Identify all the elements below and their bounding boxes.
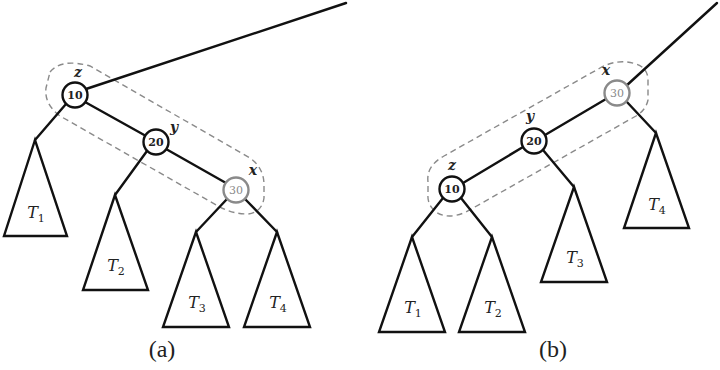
svg-text:10: 10 [67, 89, 83, 102]
panel-a-subtree-t4 [244, 232, 310, 327]
panel-b: T1 T2 T3 T4 10 z 20 y 30 x (b) [379, 3, 717, 362]
panel-b-edge-y-z [463, 147, 523, 183]
svg-text:30: 30 [610, 87, 624, 100]
panel-a-node-x: 30 x [224, 162, 258, 203]
panel-a-edge-x-t3 [196, 199, 227, 232]
panel-a-subtree-t3 [163, 232, 229, 327]
panel-a-node-y: 20 y [144, 119, 179, 155]
panel-a-label-x: x [248, 162, 258, 178]
panel-a-edge-y-x [166, 149, 226, 183]
panel-a-edge-x-t4 [245, 199, 277, 232]
panel-a: T1 T2 T3 T4 10 z 20 y 30 x (a) [4, 3, 346, 362]
panel-b-node-y: 20 y [522, 108, 547, 154]
panel-b-edge-z-t2 [461, 198, 492, 237]
panel-a-edge-y-t2 [115, 151, 147, 195]
panel-a-edge-z-y [85, 102, 146, 136]
svg-text:20: 20 [148, 136, 164, 149]
panel-b-edge-x-t4 [626, 101, 656, 133]
panel-a-subtree-t2 [83, 195, 148, 290]
rotation-diagram: T1 T2 T3 T4 10 z 20 y 30 x (a) [0, 0, 720, 370]
svg-text:30: 30 [229, 184, 243, 197]
panel-b-subtree-t2 [459, 237, 525, 332]
panel-a-parent-edge [86, 3, 346, 89]
svg-text:10: 10 [444, 183, 460, 196]
panel-b-label-y: y [525, 108, 535, 124]
panel-b-label-z: z [447, 157, 457, 173]
panel-b-edge-y-t3 [543, 150, 574, 187]
panel-b-label-x: x [601, 62, 611, 78]
panel-b-parent-edge [626, 3, 717, 86]
panel-b-caption: (b) [539, 336, 567, 362]
panel-b-subtree-t3 [541, 187, 607, 282]
panel-a-label-z: z [73, 64, 83, 80]
panel-b-subtree-t1 [379, 237, 445, 332]
panel-a-node-z: 10 z [63, 64, 88, 108]
panel-b-node-z: 10 z [440, 157, 465, 202]
panel-a-edge-z-t1 [35, 104, 66, 140]
panel-a-label-y: y [169, 119, 179, 135]
panel-b-edge-x-y [545, 99, 606, 135]
panel-b-edge-z-t1 [412, 198, 443, 237]
panel-b-node-x: 30 x [601, 62, 630, 106]
svg-text:20: 20 [526, 135, 542, 148]
panel-a-caption: (a) [149, 336, 176, 362]
